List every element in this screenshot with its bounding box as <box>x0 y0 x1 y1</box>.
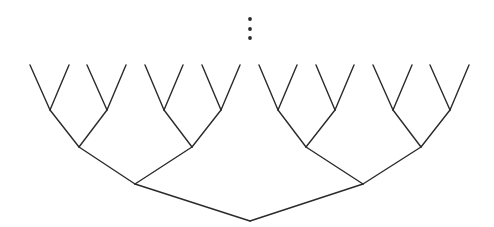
tree-edge <box>393 65 412 110</box>
tree-edge <box>107 65 126 110</box>
tree-edge <box>393 110 421 147</box>
tree-edge <box>79 147 135 184</box>
tree-edge <box>373 65 393 110</box>
tree-edge <box>164 65 183 110</box>
tree-edge <box>135 184 250 221</box>
tree-edge <box>450 65 469 110</box>
tree-edge <box>278 65 297 110</box>
tree-edge <box>164 110 192 147</box>
tree-edge <box>259 65 278 110</box>
tree-edge <box>145 65 164 110</box>
tree-edge <box>306 147 363 184</box>
tree-edge <box>335 65 354 110</box>
tree-edge <box>87 65 107 110</box>
tree-edge <box>421 110 450 147</box>
tree-edge <box>316 65 335 110</box>
tree-edge <box>79 110 107 147</box>
tree-edge <box>250 184 363 221</box>
tree-edge <box>50 65 69 110</box>
ellipsis-dot <box>248 17 252 21</box>
tree-edge <box>306 110 335 147</box>
tree-edge <box>202 65 221 110</box>
tree-edge <box>221 65 240 110</box>
tree-edge <box>278 110 306 147</box>
tree-edge <box>30 65 50 110</box>
ellipsis-dot <box>248 27 252 31</box>
tree-graphic <box>0 0 494 227</box>
binary-tree-diagram <box>0 0 494 227</box>
tree-edge <box>50 110 79 147</box>
tree-edge <box>363 147 421 184</box>
tree-edge <box>430 65 450 110</box>
ellipsis-dot <box>248 36 252 40</box>
tree-edge <box>192 110 221 147</box>
tree-edge <box>135 147 192 184</box>
